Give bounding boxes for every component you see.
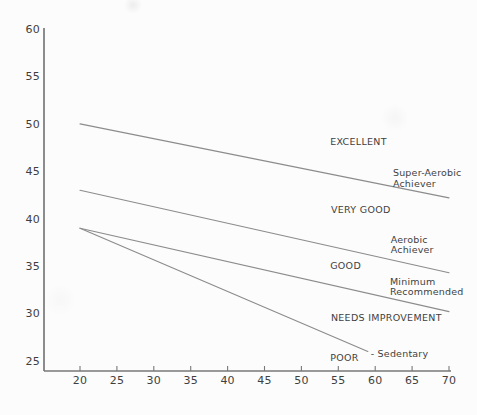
y-tick-label: 35 [26,260,40,273]
y-tick-label: 60 [26,23,40,36]
x-tick-label: 65 [405,374,419,387]
y-tick-label: 40 [26,213,40,226]
x-tick-label: 35 [183,374,197,387]
x-tick-label: 30 [147,374,161,387]
line-label-aerobic-achiever-l2: Achiever [391,244,434,255]
y-tick-label: 25 [26,355,40,368]
y-tick-label: 50 [26,118,40,131]
zone-label-very-good: VERY GOOD [331,204,391,215]
y-tick-label: 55 [26,70,40,83]
x-tick-label: 70 [442,374,456,387]
line-label-minimum-recommended-l1: Minimum [390,276,435,287]
zone-label-poor: POOR [330,352,359,363]
chart-canvas: 20253035404550556065706055504540353025EX… [0,0,477,415]
y-tick-label: 30 [26,307,40,320]
y-tick-label: 45 [26,165,40,178]
line-label-aerobic-achiever-l1: Aerobic [391,234,428,245]
line-label-super-aerobic-achiever-l1: Super-Aerobic [393,167,462,178]
series-line-sedentary [80,228,368,351]
x-tick-label: 50 [294,374,308,387]
series-line-aerobic-achiever [80,190,449,273]
x-tick-label: 20 [73,374,87,387]
zone-label-needs-improvement: NEEDS IMPROVEMENT [331,312,442,323]
x-tick-label: 25 [110,374,124,387]
x-tick-label: 55 [331,374,345,387]
line-label-minimum-recommended-l2: Recommended [390,286,464,297]
zone-label-good: GOOD [330,260,361,271]
aerobic-fitness-chart-page: 20253035404550556065706055504540353025EX… [0,0,477,415]
line-label-sedentary: - Sedentary [371,348,429,359]
x-tick-label: 40 [220,374,234,387]
x-tick-label: 60 [368,374,382,387]
x-tick-label: 45 [257,374,271,387]
zone-label-excellent: EXCELLENT [330,136,387,147]
line-label-super-aerobic-achiever-l2: Achiever [393,178,436,189]
